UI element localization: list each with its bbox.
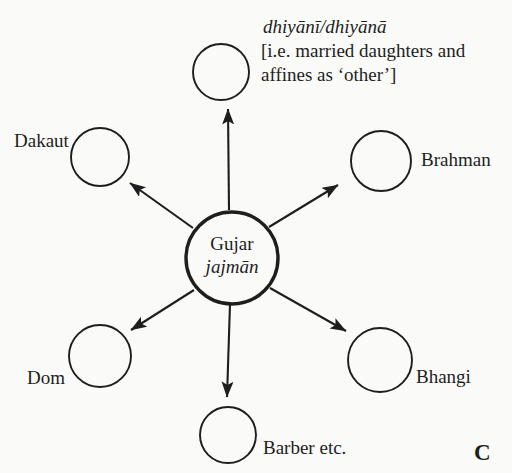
node-circle-dom <box>69 325 131 387</box>
arrow-to-barber <box>227 304 230 397</box>
figure-diagram: Gujar jajmān dhiyānī/dhiyānā [i.e. marri… <box>0 0 512 473</box>
node-circle-bhangi <box>348 328 412 392</box>
arrow-to-brahman <box>269 185 338 227</box>
center-node-label-caste: Gujar <box>210 233 254 254</box>
label-dom: Dom <box>27 367 65 388</box>
label-dhiyani-line2: [i.e. married daughters and <box>261 40 466 61</box>
diagram-canvas: Gujar jajmān dhiyānī/dhiyānā [i.e. marri… <box>0 0 512 473</box>
label-dhiyani-line3: affines as ‘other’] <box>261 64 396 85</box>
arrow-to-dhiyani <box>228 109 229 210</box>
arrow-to-bhangi <box>270 288 346 331</box>
center-node-label-role: jajmān <box>203 256 259 277</box>
label-dhiyani-line1: dhiyānī/dhiyānā <box>263 16 387 37</box>
arrow-to-dom <box>131 290 194 330</box>
label-dakaut: Dakaut <box>14 130 70 151</box>
arrow-to-dakaut <box>130 183 193 228</box>
figure-letter: C <box>474 440 491 465</box>
node-circle-dakaut <box>71 128 129 186</box>
node-circle-brahman <box>351 131 411 191</box>
node-circle-barber <box>200 407 256 463</box>
label-barber: Barber etc. <box>263 437 346 458</box>
label-bhangi: Bhangi <box>416 366 471 387</box>
node-circle-dhiyani <box>193 44 249 100</box>
label-brahman: Brahman <box>421 149 491 170</box>
